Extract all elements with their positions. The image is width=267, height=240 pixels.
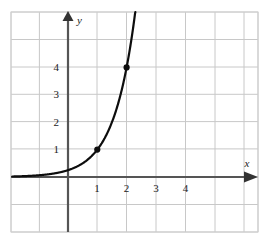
y-tick-label-1: 1: [54, 143, 60, 155]
x-tick-label-1: 1: [94, 182, 100, 194]
x-axis-label: x: [244, 157, 250, 169]
x-tick-label-2: 2: [124, 182, 130, 194]
data-point-1-1: [94, 147, 100, 153]
x-tick-label-3: 3: [153, 182, 159, 194]
x-tick-label-4: 4: [183, 182, 189, 194]
y-axis-label: y: [76, 14, 82, 26]
y-tick-label-2: 2: [54, 116, 60, 128]
data-point-2-4: [124, 64, 130, 70]
graph-figure: 1 2 3 4 1 2 3 4 y x: [0, 0, 267, 240]
exponential-graph-plot: 1 2 3 4 1 2 3 4 y x: [0, 0, 267, 240]
y-tick-label-3: 3: [54, 88, 60, 100]
y-tick-label-4: 4: [54, 61, 60, 73]
